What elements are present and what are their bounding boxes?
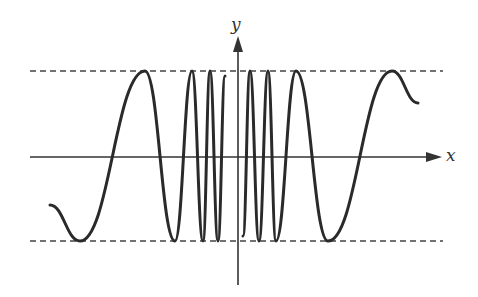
chart-canvas: [0, 0, 478, 297]
x-axis-arrow-icon: [426, 152, 442, 162]
sin-curve: [50, 71, 418, 241]
y-axis-label: y: [231, 14, 241, 34]
y-axis-arrow-icon: [233, 36, 243, 52]
x-axis-label: x: [446, 145, 456, 165]
